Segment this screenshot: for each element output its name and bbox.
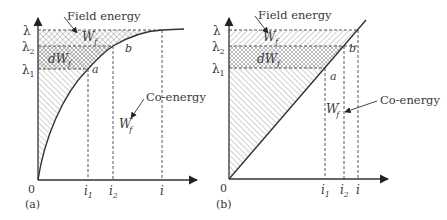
origin-label-a: 0 <box>28 183 35 196</box>
x-tick-i1-a: i1 <box>84 184 93 200</box>
panel-a: λ λ2 λ1 i1 i2 i 0 (a) a b Wf dWf W′f Fie… <box>22 9 206 211</box>
coenergy-pointer-a <box>131 99 144 118</box>
y-tick-lambda-b: λ <box>213 24 221 38</box>
coenergy-wf-label-a: W′f <box>119 116 134 134</box>
x-tick-i2-a: i2 <box>109 184 118 200</box>
caption-a: (a) <box>25 198 40 211</box>
coenergy-pointer-b <box>345 101 377 112</box>
point-b-label-a: b <box>125 42 132 55</box>
origin-label-b: 0 <box>220 182 227 195</box>
energy-coenergy-figure: λ λ2 λ1 i1 i2 i 0 (a) a b Wf dWf W′f Fie… <box>0 0 447 220</box>
field-energy-label-b: Field energy <box>258 8 332 22</box>
caption-b: (b) <box>216 198 232 211</box>
point-b-label-b: b <box>349 42 356 55</box>
x-tick-i2-b: i2 <box>340 183 349 199</box>
field-energy-top-region-b <box>229 30 358 46</box>
x-tick-i-a: i <box>160 184 164 198</box>
point-a-label-a: a <box>92 63 99 76</box>
coenergy-label-b: Co-energy <box>380 93 440 107</box>
y-tick-lambda2-a: λ2 <box>22 40 35 56</box>
point-a-label-b: a <box>330 70 337 83</box>
y-tick-lambda1-b: λ1 <box>212 62 225 78</box>
coenergy-label-a: Co-energy <box>146 90 206 104</box>
y-tick-lambda2-b: λ2 <box>212 40 225 56</box>
field-energy-label-a: Field energy <box>67 9 141 23</box>
panel-b: λ λ2 λ1 i1 i2 i 0 (b) a b Wf dWf W′f Fie… <box>212 8 440 211</box>
x-tick-i-b: i <box>356 183 360 197</box>
coenergy-wf-label-b: W′f <box>326 101 341 119</box>
y-tick-lambda1-a: λ1 <box>22 63 35 79</box>
y-tick-lambda-a: λ <box>23 24 31 38</box>
x-tick-i1-b: i1 <box>321 183 330 199</box>
